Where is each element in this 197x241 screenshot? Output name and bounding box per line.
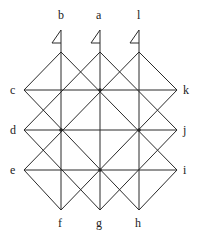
- label-e: e: [10, 163, 15, 177]
- label-l: l: [137, 8, 141, 22]
- diagonal: [139, 52, 177, 90]
- grid-lines: [24, 52, 177, 210]
- label-g: g: [96, 216, 102, 230]
- diagonal: [24, 170, 61, 210]
- flags: [52, 30, 139, 52]
- flag-a: [91, 30, 100, 52]
- lattice-diagram: b a l c d e k j i f g h: [0, 0, 197, 241]
- diagonal: [24, 52, 139, 170]
- label-d: d: [10, 123, 16, 137]
- node: [98, 88, 102, 92]
- diagonal: [24, 90, 139, 210]
- label-j: j: [182, 123, 186, 137]
- node: [137, 128, 141, 132]
- node: [59, 128, 63, 132]
- label-a: a: [96, 8, 102, 22]
- flag-l: [130, 30, 139, 52]
- diagonal: [61, 52, 177, 170]
- label-k: k: [183, 83, 189, 97]
- diagonal: [24, 52, 100, 130]
- diagonal: [24, 52, 61, 90]
- flag-b: [52, 30, 61, 52]
- label-c: c: [10, 83, 15, 97]
- diagonal: [61, 90, 177, 210]
- node: [98, 168, 102, 172]
- label-i: i: [183, 163, 187, 177]
- label-f: f: [58, 216, 62, 230]
- label-h: h: [135, 216, 141, 230]
- label-b: b: [58, 8, 64, 22]
- diagonal: [139, 170, 177, 210]
